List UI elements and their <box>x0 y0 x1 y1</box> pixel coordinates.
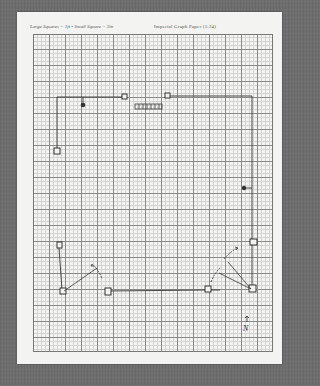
north-label: N <box>242 324 249 333</box>
right-wall-square <box>250 239 257 245</box>
wall-left-lower <box>59 248 62 290</box>
wall-bottom <box>108 290 207 291</box>
bottom-wall-square-2 <box>205 286 211 292</box>
top-wall-square-1 <box>122 94 127 99</box>
bottom-left-corner-square <box>60 288 66 294</box>
ceiling-light-icon <box>81 103 86 108</box>
wall-top-left <box>57 97 125 150</box>
floor-plan-drawing: N <box>0 0 304 386</box>
door-right-swing-icon <box>211 247 251 289</box>
radiator-icon <box>135 104 162 109</box>
door-left-swing-icon <box>64 264 102 291</box>
bottom-wall-square-1 <box>105 288 111 295</box>
north-arrow-icon <box>245 316 249 322</box>
top-wall-square-2 <box>165 93 170 98</box>
wall-light-icon <box>242 186 246 190</box>
left-wall-square-lower <box>57 242 62 248</box>
left-wall-square-upper <box>54 148 60 154</box>
